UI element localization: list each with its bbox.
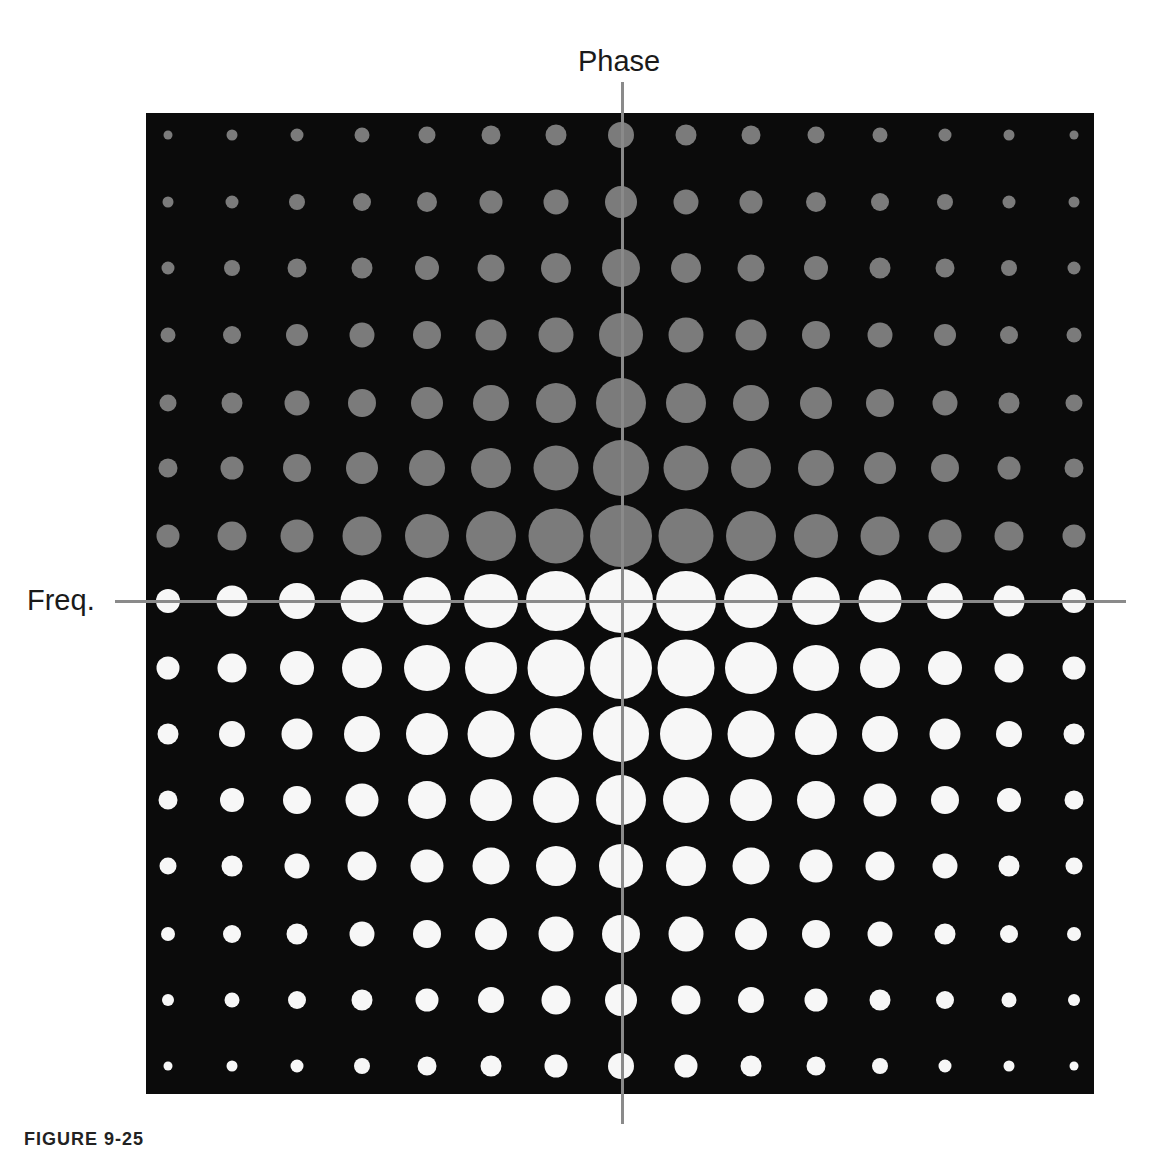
magnitude-dot xyxy=(529,509,584,564)
magnitude-dot xyxy=(225,993,240,1008)
magnitude-dot xyxy=(808,127,825,144)
magnitude-dot xyxy=(409,450,445,486)
magnitude-dot xyxy=(163,197,174,208)
magnitude-dot xyxy=(870,258,891,279)
magnitude-dot xyxy=(533,777,579,823)
magnitude-dot xyxy=(223,925,241,943)
magnitude-dot xyxy=(283,786,311,814)
magnitude-dot xyxy=(868,922,893,947)
magnitude-dot xyxy=(871,193,889,211)
freq-axis-label: Freq. xyxy=(27,586,95,615)
magnitude-dot xyxy=(542,986,571,1015)
magnitude-dot xyxy=(726,511,776,561)
magnitude-dot xyxy=(1003,196,1016,209)
magnitude-dot xyxy=(873,128,888,143)
magnitude-dot xyxy=(1002,993,1017,1008)
figure-caption: FIGURE 9-25 xyxy=(24,1130,144,1148)
magnitude-dot xyxy=(348,389,376,417)
magnitude-dot xyxy=(544,190,569,215)
magnitude-dot xyxy=(663,777,709,823)
magnitude-dot xyxy=(933,854,958,879)
magnitude-dot xyxy=(545,1055,568,1078)
magnitude-dot xyxy=(870,990,891,1011)
magnitude-dot xyxy=(288,259,307,278)
magnitude-dot xyxy=(1000,925,1018,943)
magnitude-dot xyxy=(731,448,771,488)
magnitude-dot xyxy=(415,256,439,280)
magnitude-dot xyxy=(223,326,241,344)
magnitude-dot xyxy=(669,917,704,952)
magnitude-dot xyxy=(352,990,373,1011)
magnitude-dot xyxy=(794,514,838,558)
magnitude-dot xyxy=(666,846,706,886)
magnitude-dot xyxy=(536,846,576,886)
magnitude-dot xyxy=(864,784,897,817)
magnitude-dot xyxy=(738,987,764,1013)
magnitude-dot xyxy=(939,129,952,142)
magnitude-dot xyxy=(1065,459,1084,478)
magnitude-dot xyxy=(288,991,306,1009)
magnitude-dot xyxy=(534,446,579,491)
magnitude-dot xyxy=(355,128,370,143)
magnitude-dot xyxy=(933,391,958,416)
magnitude-dot xyxy=(805,989,828,1012)
magnitude-dot xyxy=(350,323,375,348)
magnitude-dot xyxy=(419,127,436,144)
magnitude-dot xyxy=(354,1058,370,1074)
magnitude-dot xyxy=(164,131,173,140)
magnitude-dot xyxy=(343,517,382,556)
magnitude-dot xyxy=(530,708,582,760)
magnitude-dot xyxy=(416,989,439,1012)
magnitude-dot xyxy=(928,651,962,685)
magnitude-dot xyxy=(658,640,715,697)
magnitude-dot xyxy=(220,788,244,812)
magnitude-dot xyxy=(481,1056,502,1077)
magnitude-dot xyxy=(344,716,380,752)
magnitude-dot xyxy=(539,917,574,952)
magnitude-dot xyxy=(1000,326,1018,344)
magnitude-dot xyxy=(798,450,834,486)
magnitude-dot xyxy=(227,1061,238,1072)
magnitude-dot xyxy=(286,324,308,346)
magnitude-dot xyxy=(1066,858,1083,875)
magnitude-dot xyxy=(346,784,379,817)
magnitude-dot xyxy=(162,262,175,275)
magnitude-dot xyxy=(468,711,515,758)
magnitude-dot xyxy=(1065,791,1084,810)
magnitude-dot xyxy=(674,190,699,215)
magnitude-dot xyxy=(471,448,511,488)
magnitude-dot xyxy=(868,323,893,348)
magnitude-dot xyxy=(160,858,177,875)
magnitude-dot xyxy=(931,786,959,814)
magnitude-dot xyxy=(280,651,314,685)
magnitude-dot xyxy=(740,191,763,214)
magnitude-dot xyxy=(478,255,505,282)
magnitude-dot xyxy=(1066,395,1083,412)
magnitude-dot xyxy=(872,1058,888,1074)
magnitude-dot xyxy=(281,520,314,553)
magnitude-dot xyxy=(528,640,585,697)
magnitude-dot xyxy=(348,852,377,881)
magnitude-dot xyxy=(411,850,444,883)
magnitude-dot xyxy=(866,389,894,417)
magnitude-dot xyxy=(1067,328,1082,343)
magnitude-dot xyxy=(405,514,449,558)
magnitude-dot xyxy=(158,724,179,745)
magnitude-dot xyxy=(666,383,706,423)
magnitude-dot xyxy=(676,125,697,146)
magnitude-dot xyxy=(283,454,311,482)
magnitude-dot xyxy=(291,129,304,142)
magnitude-dot xyxy=(161,328,176,343)
magnitude-dot xyxy=(465,642,517,694)
magnitude-dot xyxy=(1064,724,1085,745)
magnitude-dot xyxy=(164,1062,173,1071)
magnitude-dot xyxy=(735,918,767,950)
magnitude-dot xyxy=(219,721,245,747)
magnitude-dot xyxy=(861,517,900,556)
magnitude-dot xyxy=(1070,131,1079,140)
magnitude-dot xyxy=(797,781,835,819)
magnitude-dot xyxy=(736,320,767,351)
magnitude-dot xyxy=(996,721,1022,747)
magnitude-dot xyxy=(222,393,243,414)
magnitude-dot xyxy=(408,781,446,819)
